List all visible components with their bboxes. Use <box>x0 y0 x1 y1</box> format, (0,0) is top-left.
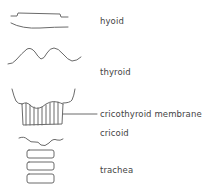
cricothyroid-shape <box>12 89 97 125</box>
label-cricoid: cricoid <box>100 129 129 138</box>
label-hyoid: hyoid <box>100 17 124 26</box>
larynx-diagram: hyoid thyroid cricothyroid membrane cric… <box>0 0 218 187</box>
cricoid-shape <box>19 137 63 145</box>
thyroid-shape <box>8 48 81 64</box>
trachea-rings <box>27 150 54 183</box>
diagram-drawing <box>0 0 218 187</box>
label-cricothyroid-membrane: cricothyroid membrane <box>100 110 202 119</box>
hyoid-shape <box>11 13 68 28</box>
label-trachea: trachea <box>100 166 133 175</box>
trachea-ring-2 <box>27 162 54 170</box>
trachea-ring-3 <box>27 174 54 183</box>
trachea-ring-1 <box>27 150 54 158</box>
label-thyroid: thyroid <box>100 68 131 77</box>
